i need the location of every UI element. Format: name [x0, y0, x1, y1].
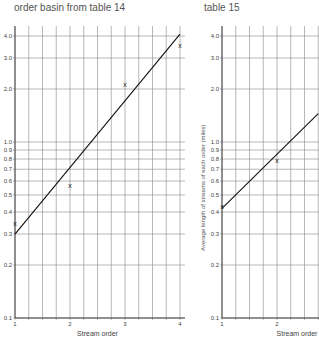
x-axis-label: Stream order	[77, 330, 119, 337]
y-tick-label: 0.1	[4, 315, 13, 321]
y-tick-label: 0.7	[4, 166, 13, 172]
stream-order-charts: 0.10.20.30.40.50.60.70.80.91.02.03.04.01…	[0, 0, 319, 337]
x-tick-label: 4	[178, 321, 182, 327]
y-tick-label: 2.0	[4, 86, 13, 92]
y-tick-label: 1.0	[211, 139, 220, 145]
x-tick-label: 1	[13, 321, 17, 327]
data-point-marker: x	[220, 203, 224, 210]
y-tick-label: 0.8	[4, 156, 13, 162]
fit-line	[222, 114, 318, 209]
y-tick-label: 3.0	[4, 55, 13, 61]
y-tick-label: 3.0	[211, 55, 220, 61]
y-tick-label: 0.4	[4, 209, 13, 215]
y-tick-label: 0.6	[4, 178, 13, 184]
y-tick-label: 0.8	[211, 156, 220, 162]
x-axis-label: Stream order	[277, 330, 319, 337]
data-point-marker: x	[178, 42, 182, 49]
y-axis-label: Average length of streams of each order …	[200, 124, 206, 251]
y-tick-label: 0.7	[211, 166, 220, 172]
data-point-marker: x	[123, 81, 127, 88]
y-tick-label: 0.3	[211, 231, 220, 237]
y-tick-label: 0.2	[4, 262, 13, 268]
data-point-marker: x	[275, 157, 279, 164]
y-tick-label: 4.0	[4, 33, 13, 39]
y-tick-label: 0.5	[211, 192, 220, 198]
x-tick-label: 1	[220, 321, 224, 327]
y-tick-label: 0.9	[211, 147, 220, 153]
y-tick-label: 0.1	[211, 315, 220, 321]
data-point-marker: x	[13, 220, 17, 227]
y-tick-label: 0.9	[4, 147, 13, 153]
x-tick-label: 2	[275, 321, 279, 327]
y-tick-label: 0.2	[211, 262, 220, 268]
y-tick-label: 2.0	[211, 86, 220, 92]
y-tick-label: 1.0	[4, 139, 13, 145]
y-tick-label: 0.3	[4, 231, 13, 237]
data-point-marker: x	[68, 182, 72, 189]
y-tick-label: 4.0	[211, 33, 220, 39]
y-tick-label: 0.5	[4, 192, 13, 198]
y-tick-label: 0.6	[211, 178, 220, 184]
x-tick-label: 2	[68, 321, 72, 327]
x-tick-label: 3	[123, 321, 127, 327]
y-tick-label: 0.4	[211, 209, 220, 215]
